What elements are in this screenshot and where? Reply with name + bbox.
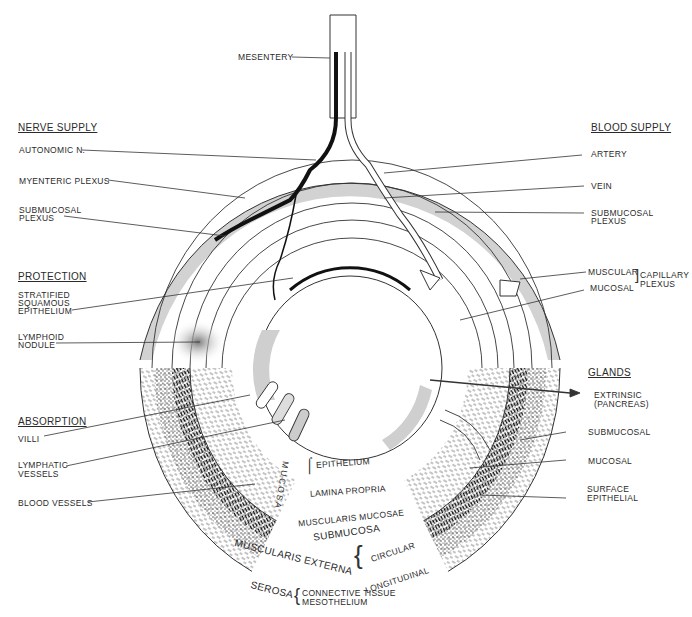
label-epithelial: EPITHELIAL	[587, 494, 638, 503]
label-blood-vessels: BLOOD VESSELS	[18, 499, 93, 508]
heading-protection: PROTECTION	[18, 271, 87, 282]
label-nodule: NODULE	[18, 341, 55, 350]
muscularis-bracket: {	[354, 548, 363, 563]
serosa-bracket: {	[294, 588, 300, 603]
label-myenteric-plexus: MYENTERIC PLEXUS	[19, 177, 110, 186]
label-mucosal-capillary: MUCOSAL	[590, 284, 634, 293]
label-mucosal-gland: MUCOSAL	[588, 457, 632, 466]
label-submucosal-gland: SUBMUCOSAL	[588, 428, 651, 437]
label-vessels: VESSELS	[18, 470, 59, 479]
label-plexus-nerve: PLEXUS	[19, 214, 54, 223]
label-pancreas: (PANCREAS)	[594, 400, 649, 409]
digestive-tract-diagram	[0, 0, 692, 617]
label-mesentery: MESENTERY	[238, 53, 293, 62]
heading-absorption: ABSORPTION	[18, 416, 87, 427]
mucosa-bracket-top: ⌠	[305, 457, 314, 472]
label-autonomic-n: AUTONOMIC N.	[19, 146, 85, 155]
heading-glands: GLANDS	[588, 367, 631, 378]
heading-blood-supply: BLOOD SUPPLY	[591, 122, 671, 133]
label-artery: ARTERY	[591, 150, 627, 159]
label-mesothelium: MESOTHELIUM	[302, 598, 368, 607]
label-plexus-capillary: PLEXUS	[640, 280, 675, 289]
label-villi: VILLI	[18, 435, 39, 444]
label-vein: VEIN	[591, 182, 612, 191]
heading-nerve-supply: NERVE SUPPLY	[18, 122, 97, 133]
label-plexus-blood: PLEXUS	[591, 217, 626, 226]
capillary-bracket: ]	[635, 267, 639, 282]
label-muscular-capillary: MUSCULAR	[588, 268, 638, 277]
label-epithelium-protect: EPITHELIUM	[18, 307, 72, 316]
